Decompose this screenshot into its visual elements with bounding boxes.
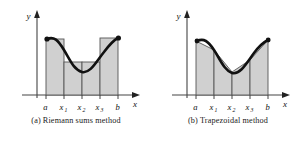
x-tick-marks bbox=[46, 95, 118, 99]
tick-subscript-x2: 2 bbox=[83, 107, 86, 113]
panel-a-caption: (a)Riemann sums method bbox=[31, 116, 120, 125]
panel-trapezoidal: y x bbox=[152, 0, 304, 148]
x-tick-labels: a x 1 x 2 x 3 b bbox=[43, 102, 120, 113]
curve-endpoint-dot-right bbox=[116, 35, 121, 40]
tick-label-x3: x bbox=[244, 102, 249, 112]
tick-label-x1: x bbox=[58, 102, 63, 112]
trapezoid-3 bbox=[232, 60, 250, 95]
y-axis bbox=[184, 10, 190, 98]
trapezoid-1 bbox=[196, 41, 214, 95]
panel-b-caption-tag: (b) bbox=[188, 116, 198, 125]
riemann-plot: y x bbox=[0, 0, 152, 118]
tick-subscript-x1: 1 bbox=[215, 107, 218, 113]
tick-label-b: b bbox=[265, 102, 270, 112]
y-axis-label: y bbox=[26, 11, 31, 21]
tick-subscript-x3: 3 bbox=[100, 107, 104, 113]
panel-b-caption-text: Trapezoidal method bbox=[200, 116, 268, 125]
tick-label-a: a bbox=[43, 102, 47, 112]
panel-riemann-sums: y x bbox=[0, 0, 152, 148]
y-axis bbox=[34, 10, 40, 98]
x-tick-marks bbox=[196, 95, 268, 99]
tick-label-b: b bbox=[115, 102, 120, 112]
curve-endpoint-dot-left bbox=[195, 39, 200, 44]
curve-endpoint-dot-left bbox=[44, 36, 49, 41]
panel-a-caption-tag: (a) bbox=[31, 116, 41, 125]
tick-subscript-x1: 1 bbox=[65, 107, 68, 113]
tick-label-x2: x bbox=[76, 102, 81, 112]
tick-label-x3: x bbox=[94, 102, 99, 112]
tick-label-x2: x bbox=[226, 102, 231, 112]
panel-a-caption-text: Riemann sums method bbox=[43, 116, 121, 125]
x-axis-label: x bbox=[282, 99, 287, 109]
tick-subscript-x3: 3 bbox=[250, 107, 254, 113]
tick-label-x1: x bbox=[208, 102, 213, 112]
figure-row: y x bbox=[0, 0, 304, 148]
trapezoid-plot: y x bbox=[152, 0, 304, 118]
curve-endpoint-dot-right bbox=[266, 38, 271, 43]
x-tick-labels: a x 1 x 2 x 3 b bbox=[193, 102, 270, 113]
tick-label-a: a bbox=[193, 102, 197, 112]
tick-subscript-x2: 2 bbox=[233, 107, 236, 113]
y-axis-label: y bbox=[176, 11, 181, 21]
panel-b-caption: (b)Trapezoidal method bbox=[188, 116, 268, 125]
x-axis-label: x bbox=[132, 99, 137, 109]
